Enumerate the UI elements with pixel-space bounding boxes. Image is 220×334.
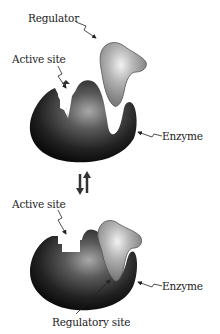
label-regulator: Regulator [28,12,79,24]
label-active-site-top: Active site [12,53,66,65]
label-enzyme-top: Enzyme [162,130,203,142]
active-site-pointer-bottom [58,210,66,234]
equilibrium-arrows-icon [76,171,91,195]
label-regulatory-site: Regulatory site [52,316,130,328]
label-enzyme-bottom: Enzyme [162,280,203,292]
regulator-shape-top [100,43,146,107]
enzyme-pointer-top [138,132,162,137]
label-active-site-bottom: Active site [12,198,66,210]
allosteric-regulation-diagram: Regulator Active site Enzyme Active site… [0,0,220,334]
enzyme-pointer-bottom [138,282,162,287]
regulator-pointer [76,22,96,38]
